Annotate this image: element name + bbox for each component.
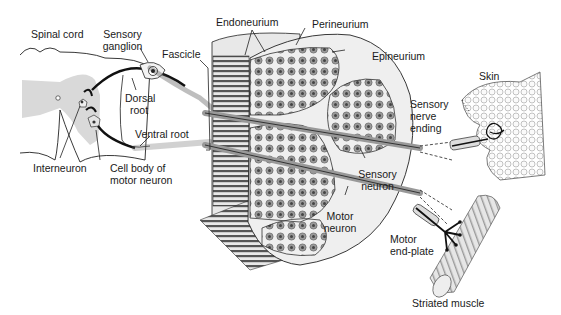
label-epineurium: Epineurium — [372, 50, 425, 62]
label-spinal-cord: Spinal cord — [31, 28, 84, 40]
label-dorsal-root-1: Dorsal — [125, 92, 155, 104]
label-sensory-ganglion-2: ganglion — [100, 40, 145, 52]
label-motor-end-plate-2: end-plate — [390, 245, 434, 257]
nerve-diagram — [0, 0, 561, 315]
label-endoneurium: Endoneurium — [216, 16, 278, 28]
striated-muscle — [429, 195, 500, 300]
label-sensory-nerve-ending-3: ending — [410, 122, 442, 134]
label-perineurium: Perineurium — [312, 18, 369, 30]
label-sensory-nerve-ending-2: nerve — [410, 110, 436, 122]
label-motor-end-plate-1: Motor — [390, 233, 417, 245]
fascicle-4 — [262, 219, 326, 256]
label-ventral-root: Ventral root — [135, 128, 189, 140]
label-cell-body-1: Cell body of — [110, 162, 165, 174]
label-skin: Skin — [479, 70, 499, 82]
label-interneuron: Interneuron — [33, 162, 87, 174]
central-canal — [56, 96, 60, 100]
label-sensory-neuron-2: neuron — [355, 180, 400, 192]
label-sensory-nerve-ending-1: Sensory — [410, 98, 449, 110]
label-striated-muscle: Striated muscle — [412, 297, 484, 309]
label-motor-neuron-1: Motor — [320, 210, 360, 222]
dorsal-root-sheath — [150, 68, 212, 108]
label-dorsal-root-2: root — [130, 104, 148, 116]
skin — [462, 72, 545, 180]
label-motor-neuron-2: neuron — [320, 222, 360, 234]
label-cell-body-2: motor neuron — [110, 174, 172, 186]
label-fascicle: Fascicle — [162, 48, 201, 60]
label-sensory-ganglion-1: Sensory — [100, 28, 145, 40]
label-sensory-neuron-1: Sensory — [355, 168, 400, 180]
